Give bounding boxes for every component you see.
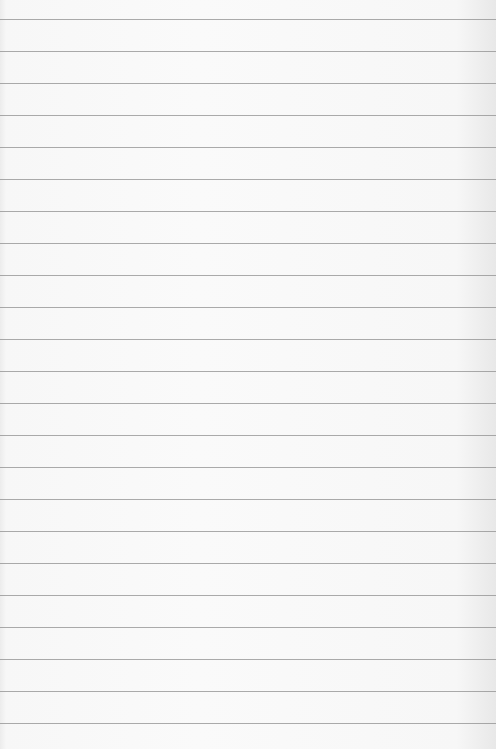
- ruled-line: [0, 147, 496, 148]
- ruled-line: [0, 179, 496, 180]
- ruled-line: [0, 275, 496, 276]
- ruled-line: [0, 531, 496, 532]
- ruled-line: [0, 371, 496, 372]
- ruled-line: [0, 83, 496, 84]
- ruled-line: [0, 403, 496, 404]
- ruled-line: [0, 19, 496, 20]
- ruled-line: [0, 659, 496, 660]
- ruled-line: [0, 307, 496, 308]
- ruled-line: [0, 563, 496, 564]
- ruled-line: [0, 243, 496, 244]
- ruled-line: [0, 499, 496, 500]
- ruled-line: [0, 115, 496, 116]
- ruled-line: [0, 595, 496, 596]
- ruled-line: [0, 467, 496, 468]
- ruled-line: [0, 211, 496, 212]
- ruled-line: [0, 339, 496, 340]
- ruled-line: [0, 723, 496, 724]
- ruled-line: [0, 691, 496, 692]
- lined-paper-sheet: [0, 0, 496, 749]
- ruled-line: [0, 627, 496, 628]
- ruled-line: [0, 51, 496, 52]
- ruled-line: [0, 435, 496, 436]
